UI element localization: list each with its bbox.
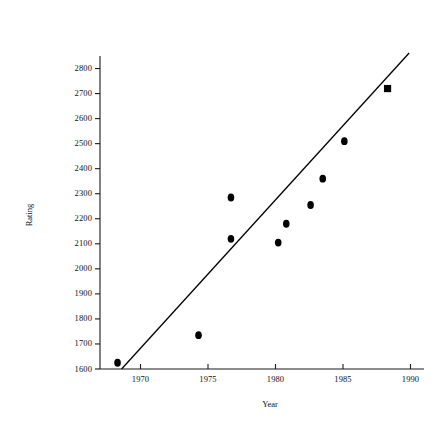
y-tick-label: 2400 [58, 163, 92, 173]
data-point-circle [275, 239, 282, 247]
y-tick-label: 2600 [58, 113, 92, 123]
y-tick-label: 2800 [58, 63, 92, 73]
trend-line [122, 53, 410, 369]
y-tick-label: 2700 [58, 88, 92, 98]
y-tick-label: 2200 [58, 213, 92, 223]
data-point-circle [228, 235, 235, 243]
trend-line-segment [122, 53, 410, 369]
x-tick-label: 1985 [323, 374, 363, 384]
data-point-circle [341, 137, 348, 145]
data-point-circle [228, 194, 235, 202]
y-tick-label: 2500 [58, 138, 92, 148]
x-tick-label: 1990 [391, 374, 431, 384]
scatter-chart: 1600170018001900200021002200230024002500… [0, 0, 437, 429]
y-tick-label: 1600 [58, 364, 92, 374]
data-point-circle [283, 220, 290, 228]
y-tick-label: 2100 [58, 238, 92, 248]
x-tick-label: 1980 [256, 374, 296, 384]
data-point-circle [114, 359, 121, 367]
y-tick-label: 2300 [58, 188, 92, 198]
x-tick-label: 1975 [188, 374, 228, 384]
x-tick-label: 1970 [121, 374, 161, 384]
data-point-circle [195, 331, 202, 339]
data-point-circle [307, 201, 314, 209]
y-tick-label: 1700 [58, 338, 92, 348]
y-tick-label: 1800 [58, 313, 92, 323]
y-tick-label: 2000 [58, 263, 92, 273]
x-axis-ticks [141, 364, 411, 369]
data-point-circle [319, 175, 326, 183]
y-axis-ticks [95, 69, 100, 369]
x-axis-title: Year [210, 399, 330, 409]
y-tick-label: 1900 [58, 288, 92, 298]
y-axis-title: Rating [24, 175, 34, 255]
data-point-square [384, 85, 391, 92]
